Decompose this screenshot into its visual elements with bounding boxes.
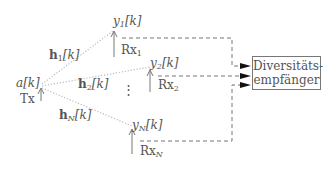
diversity-receiver-box: Diversitäts- empfänger: [252, 56, 321, 90]
feed-rxn: [140, 85, 240, 141]
channel-n-label: hN[k]: [59, 109, 91, 122]
rxn-signal-label: yN[k]: [132, 119, 162, 132]
combiner-line-2: empfänger: [253, 73, 320, 87]
ellipsis: ⋮: [122, 85, 135, 94]
feed-arrowheads: [240, 63, 251, 88]
arrowhead-2: [240, 73, 251, 79]
channel-2-label: h2[k]: [78, 78, 108, 91]
rx1-signal-label: y1[k]: [113, 15, 142, 28]
arrowhead-3: [240, 82, 251, 88]
tx-signal-label: a[k]: [16, 77, 40, 90]
combiner-line-1: Diversitäts-: [253, 59, 320, 73]
rxn-label: RxN: [140, 145, 163, 158]
rx2-signal-label: y2[k]: [150, 57, 179, 70]
arrowhead-1: [240, 63, 251, 69]
rx1-label: Rx1: [121, 44, 142, 57]
rx2-label: Rx2: [158, 79, 179, 92]
tx-label: Tx: [20, 93, 35, 106]
diversity-reception-diagram: a[k] Tx h1[k] h2[k] hN[k] y1[k] Rx1 y2[k…: [0, 0, 332, 178]
channel-1-label: h1[k]: [49, 49, 79, 62]
